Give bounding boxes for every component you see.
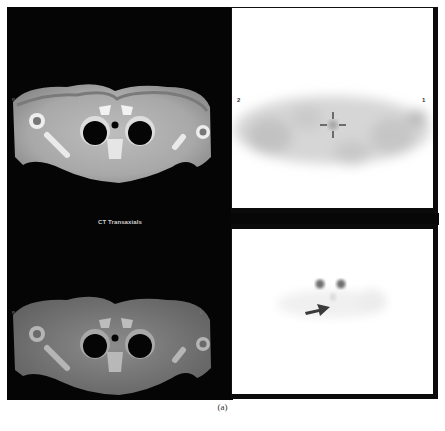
ct-top-left-marker: R	[12, 97, 15, 102]
arrow-icon	[304, 300, 332, 320]
pet-bottom-image	[232, 229, 433, 394]
figure-caption: (a)	[0, 402, 445, 412]
pet-top-panel: 2 1	[231, 7, 438, 214]
pet-top-image	[232, 8, 433, 208]
ct-transaxials-label: CT Transaxials	[7, 219, 233, 225]
pet-top-right-marker: 1	[422, 97, 425, 103]
ct-bottom-right-marker: L	[200, 310, 202, 315]
figure: R L CT Transaxials R L	[0, 0, 445, 431]
ct-slice-bottom	[7, 240, 233, 400]
crosshair-icon	[318, 110, 348, 140]
ct-panel: R L CT Transaxials R L	[7, 7, 233, 400]
ct-bottom-left-marker: R	[12, 310, 15, 315]
ct-slice-top	[7, 7, 233, 207]
pet-bottom-panel	[231, 224, 438, 399]
pet-top-left-marker: 2	[237, 97, 240, 103]
ct-top-right-marker: L	[199, 98, 201, 103]
